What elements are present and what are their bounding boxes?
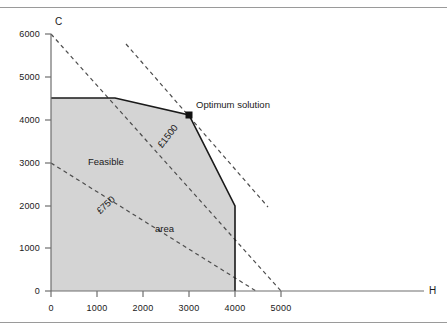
linear-programming-plot bbox=[0, 0, 447, 331]
optimum-solution-marker bbox=[186, 112, 193, 119]
y-axis-label: C bbox=[55, 16, 62, 27]
x-tick-label-3000: 3000 bbox=[169, 303, 209, 313]
y-tick-label-0: 0 bbox=[6, 286, 40, 296]
feasible-region-fill bbox=[51, 98, 235, 291]
y-tick-label-1000: 1000 bbox=[6, 243, 40, 253]
y-tick-label-3000: 3000 bbox=[6, 158, 40, 168]
area-text-label: area bbox=[155, 223, 174, 234]
chart-page: 6000 5000 4000 3000 2000 1000 0 0 1000 2… bbox=[0, 0, 447, 331]
x-tick-label-5000: 5000 bbox=[261, 303, 301, 313]
x-tick-label-2000: 2000 bbox=[123, 303, 163, 313]
x-tick-label-0: 0 bbox=[31, 303, 71, 313]
x-tick-label-1000: 1000 bbox=[77, 303, 117, 313]
x-axis-label: H bbox=[429, 285, 436, 296]
feasible-text-label: Feasible bbox=[88, 156, 124, 167]
y-tick-label-6000: 6000 bbox=[6, 29, 40, 39]
x-tick-label-4000: 4000 bbox=[215, 303, 255, 313]
y-tick-label-2000: 2000 bbox=[6, 201, 40, 211]
y-tick-label-5000: 5000 bbox=[6, 72, 40, 82]
optimum-solution-label: Optimum solution bbox=[196, 99, 270, 110]
y-tick-label-4000: 4000 bbox=[6, 115, 40, 125]
